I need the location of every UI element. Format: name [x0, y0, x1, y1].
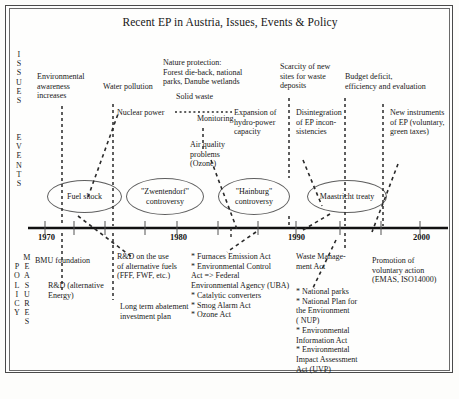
timeline-diagram: Recent EP in Austria, Issues, Events & P… [0, 0, 459, 399]
band-label-measures-l7: E [22, 308, 32, 317]
band-label-issues-l5: E [14, 87, 24, 96]
band-label-measures: M E A S U R E S [22, 253, 32, 327]
policy-rd-alternative-energy: R&D (alternative Energy) [48, 281, 118, 300]
issue-scarcity-waste-sites: Scarcity of new sites for waste deposits [280, 62, 342, 91]
event-hainburg-controversy[interactable]: "Hainburg" controversy [218, 178, 290, 215]
event-maastricht-treaty[interactable]: Maastricht treaty [307, 180, 387, 213]
band-label-measures-l5: U [22, 290, 32, 299]
band-label-events-l3: E [14, 151, 24, 160]
band-label-events-l6: S [14, 179, 24, 188]
issue-new-instruments-of-ep: New instruments of EP (voluntary, green … [390, 108, 456, 137]
band-label-policy-l4: L [12, 281, 22, 290]
band-label-events: E V E N T S [14, 133, 24, 188]
band-label-measures-l1: M [22, 253, 32, 262]
issue-disintegration-of-ep: Disintegration of EP incon- sistencies [296, 108, 354, 137]
axis-year-2000: 2000 [413, 232, 430, 242]
band-label-measures-l4: S [22, 281, 32, 290]
issue-environmental-awareness: Environmental awareness increases [37, 72, 103, 101]
band-label-events-l5: T [14, 170, 24, 179]
event-maastricht-label: Maastricht treaty [320, 192, 374, 201]
axis-year-1970: 1970 [38, 232, 55, 242]
issue-air-quality-problems: Air quality problems (Ozone) [190, 140, 242, 169]
policy-list-1980s: * Furnaces Emission Act * Environmental … [191, 252, 295, 320]
issue-expansion-hydro-power: Expansion of hydro-power capacity [234, 108, 296, 137]
issue-budget-deficit: Budget deficit, efficiency and evaluatio… [345, 72, 455, 91]
band-label-policy-l1 [12, 253, 22, 262]
band-label-measures-l6: R [22, 299, 32, 308]
event-zwentendorf-controversy[interactable]: "Zwentendorf" controversy [126, 178, 204, 215]
policy-promotion-voluntary-action: Promotion of voluntary action (EMAS, ISO… [372, 256, 454, 285]
band-label-policy-l6: C [12, 299, 22, 308]
event-hainburg-label: "Hainburg" controversy [235, 187, 273, 206]
band-label-issues-l3: S [14, 68, 24, 77]
band-label-measures-l2: E [22, 262, 32, 271]
event-zwentendorf-label: "Zwentendorf" controversy [141, 187, 189, 206]
band-label-measures-l8: S [22, 317, 32, 326]
band-label-issues-l2: S [14, 59, 24, 68]
policy-waste-management-act: Waste Manage- ment Act [296, 252, 346, 271]
issue-nuclear-power: Nuclear power [117, 108, 175, 118]
policy-list-1990s: * National parks * National Plan for the… [296, 287, 374, 374]
band-label-policy: P O L I C Y [12, 253, 22, 317]
band-label-policy-l5: I [12, 290, 22, 299]
policy-bmu-foundation: BMU foundation [35, 256, 109, 266]
band-label-events-l1: E [14, 133, 24, 142]
issue-nature-protection: Nature protection: Forest die-back, nati… [163, 58, 283, 87]
band-label-policy-l2: P [12, 262, 22, 271]
band-label-policy-l3: O [12, 271, 22, 280]
band-label-issues: I S S U E S [14, 50, 24, 105]
policy-rd-alternative-fuels: R&D on the use of alternative fuels (FFF… [117, 252, 189, 281]
issue-solid-waste: Solid waste [176, 92, 256, 102]
band-label-policy-l7: Y [12, 308, 22, 317]
band-label-events-l2: V [14, 142, 24, 151]
issue-water-pollution: Water pollution [103, 82, 165, 92]
band-label-measures-l3: A [22, 271, 32, 280]
band-label-issues-l4: U [14, 78, 24, 87]
page-title: Recent EP in Austria, Issues, Events & P… [20, 16, 440, 28]
axis-year-1980: 1980 [170, 232, 187, 242]
band-label-events-l4: N [14, 161, 24, 170]
axis-year-1990: 1990 [288, 232, 305, 242]
event-fuel-shock-label: Fuel shock [67, 192, 102, 201]
event-fuel-shock[interactable]: Fuel shock [47, 180, 122, 213]
band-label-issues-l1: I [14, 50, 24, 59]
band-label-issues-l6: S [14, 96, 24, 105]
